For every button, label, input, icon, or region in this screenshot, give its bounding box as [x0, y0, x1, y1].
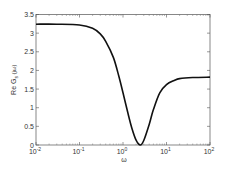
y-axis-label-subscript: s: [13, 76, 19, 79]
y-tick-label: 3: [30, 30, 34, 37]
y-axis-label: Re Gs(jω): [10, 65, 19, 95]
y-tick-label: 2: [30, 67, 34, 74]
x-tick-label: 102: [204, 146, 215, 155]
y-tick-label: 2.5: [24, 48, 34, 55]
y-axis-label-main: Re G: [10, 79, 17, 95]
plot-area: [36, 15, 210, 146]
y-tick-label: 1.5: [24, 86, 34, 93]
y-tick-label: 1: [30, 104, 34, 111]
y-axis-label-tail: (jω): [11, 65, 17, 75]
x-tick-label: 101: [160, 146, 171, 155]
x-tick-label: 10-1: [72, 146, 84, 155]
y-tick-label: 3.5: [24, 11, 34, 18]
x-tick-label: 100: [117, 146, 128, 155]
y-tick-label: 0.5: [24, 123, 34, 130]
svg-text:Re Gs(jω): Re Gs(jω): [10, 65, 19, 95]
y-tick-label: 0: [30, 142, 34, 149]
x-axis-label: ω: [121, 156, 127, 163]
chart: 10-210-1100101102 00.511.522.533.5 ω Re …: [0, 0, 227, 172]
